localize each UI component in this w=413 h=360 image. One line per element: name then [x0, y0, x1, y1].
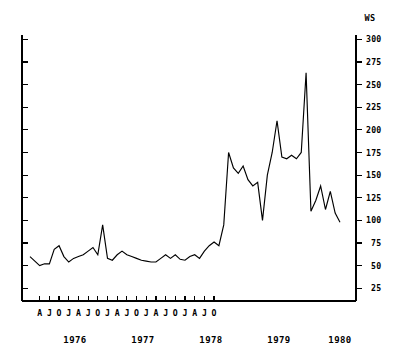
x-month-label-14: O	[173, 308, 178, 318]
y-tick-label-50: 50	[371, 261, 381, 271]
y-tick-label-175: 175	[366, 148, 381, 158]
x-month-label-1: J	[47, 308, 52, 318]
chart-background	[0, 0, 413, 360]
year-label-1980: 1980	[328, 335, 351, 345]
x-month-label-7: J	[105, 308, 110, 318]
x-month-label-9: J	[124, 308, 129, 318]
y-tick-label-300: 300	[366, 34, 381, 44]
x-month-label-13: J	[163, 308, 168, 318]
line-chart: WS	[0, 0, 413, 360]
x-month-label-5: J	[86, 308, 91, 318]
y-tick-label-250: 250	[366, 80, 381, 90]
x-month-label-17: J	[202, 308, 207, 318]
y-tick-label-75: 75	[371, 238, 381, 248]
year-label-1976: 1976	[63, 335, 86, 345]
y-tick-label-200: 200	[366, 125, 381, 135]
x-month-label-3: J	[66, 308, 71, 318]
x-month-label-12: A	[153, 308, 158, 318]
x-month-label-8: A	[115, 308, 120, 318]
y-tick-label-275: 275	[366, 57, 381, 67]
x-month-label-18: O	[212, 308, 217, 318]
y-tick-label-125: 125	[366, 193, 381, 203]
x-month-label-2: O	[57, 308, 62, 318]
y-axis-unit-label: WS	[365, 13, 376, 23]
x-month-label-10: O	[134, 308, 139, 318]
x-month-label-0: A	[37, 308, 42, 318]
year-label-1978: 1978	[199, 335, 222, 345]
year-label-1979: 1979	[267, 335, 290, 345]
y-tick-label-150: 150	[366, 170, 381, 180]
chart-container: WS	[0, 0, 413, 360]
x-month-label-15: J	[183, 308, 188, 318]
x-month-label-11: J	[144, 308, 149, 318]
x-month-label-16: A	[192, 308, 197, 318]
x-month-label-4: A	[76, 308, 81, 318]
y-tick-label-100: 100	[366, 215, 381, 225]
x-month-label-6: O	[95, 308, 100, 318]
year-label-1977: 1977	[131, 335, 154, 345]
y-tick-label-225: 225	[366, 102, 381, 112]
y-tick-label-25: 25	[371, 283, 381, 293]
